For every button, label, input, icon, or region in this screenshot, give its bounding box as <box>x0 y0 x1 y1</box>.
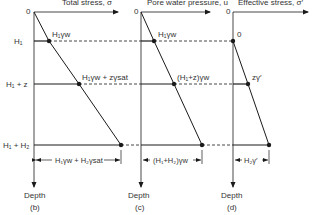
panel-total-stress: Total stress, σ 0 H₁ H₁ + z H₁ + H₂ H₁γw… <box>3 0 141 212</box>
depth-label: Depth <box>221 191 242 200</box>
dimension-label-total: H₁γw + H₂γsat <box>55 156 104 165</box>
point-label-h1gw-zgsat: H₁γw + zγsat <box>82 73 129 82</box>
point-label-h1-plus-z-gw: (H₁+z)γw <box>177 73 209 82</box>
point-label-zero: 0 <box>237 30 242 39</box>
dimension-label-effective: H₂γ′ <box>244 156 258 165</box>
row-label-h1-plus-h2: H₁ + H₂ <box>3 141 29 150</box>
panel-pore-water-pressure: Pore water pressure, u 0 H₁γw (H₁+z)γw (… <box>128 0 233 212</box>
caption-d: (d) <box>227 203 237 212</box>
panel-effective-stress: Effective stress, σ′ 0 0 zγ′ H₂γ′ Depth … <box>221 0 308 212</box>
axis-title-total-stress: Total stress, σ <box>62 0 112 7</box>
point-label-h1gw: H₁γw <box>52 30 70 39</box>
point-h1 <box>47 39 51 43</box>
point-h1-plus-h2 <box>267 143 271 147</box>
depth-label: Depth <box>24 191 45 200</box>
dimension-label-pore: (H₁+H₂)γw <box>153 156 188 165</box>
point-label-z-gamma-prime: zγ′ <box>252 73 262 82</box>
point-h1-plus-h2 <box>119 143 123 147</box>
stress-diagram: Total stress, σ 0 H₁ H₁ + z H₁ + H₂ H₁γw… <box>0 0 318 215</box>
point-label-h1gw: H₁γw <box>158 30 176 39</box>
point-h1-plus-z <box>172 82 176 86</box>
row-label-h1-plus-z: H₁ + z <box>6 80 28 89</box>
axis-title-pore-water: Pore water pressure, u <box>147 0 228 7</box>
depth-label: Depth <box>128 191 149 200</box>
origin-label: 0 <box>26 7 31 16</box>
point-h1-plus-z <box>246 82 250 86</box>
origin-label: 0 <box>134 7 139 16</box>
caption-c: (c) <box>135 203 145 212</box>
origin-label: 0 <box>226 7 231 16</box>
point-h1-plus-h2 <box>200 143 204 147</box>
axis-title-effective: Effective stress, σ′ <box>238 0 303 7</box>
point-h1-plus-z <box>77 82 81 86</box>
caption-b: (b) <box>30 203 40 212</box>
effective-stress-profile <box>233 41 269 145</box>
point-h1 <box>152 39 156 43</box>
point-h1 <box>231 39 235 43</box>
row-label-h1: H₁ <box>14 37 23 46</box>
